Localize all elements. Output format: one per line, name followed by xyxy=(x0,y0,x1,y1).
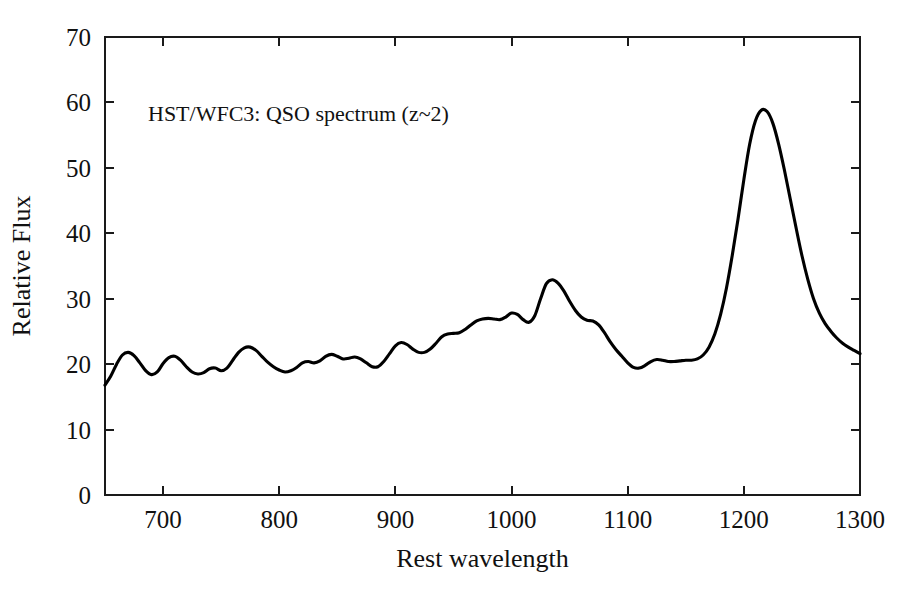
y-tick-label: 60 xyxy=(66,89,91,116)
spectrum-line xyxy=(105,109,860,385)
x-tick-label: 800 xyxy=(260,506,298,533)
y-axis-title: Relative Flux xyxy=(7,196,36,337)
y-tick-label: 30 xyxy=(66,286,91,313)
y-tick-label: 10 xyxy=(66,417,91,444)
x-tick-label: 1100 xyxy=(603,506,652,533)
x-tick-label: 1300 xyxy=(835,506,885,533)
y-tick-label: 70 xyxy=(66,24,91,51)
chart-annotation: HST/WFC3: QSO spectrum (z~2) xyxy=(148,101,449,126)
x-axis-title: Rest wavelength xyxy=(396,544,569,573)
y-tick-label: 20 xyxy=(66,351,91,378)
y-tick-label: 0 xyxy=(79,482,92,509)
x-tick-label: 900 xyxy=(377,506,415,533)
chart-figure: 7008009001000110012001300010203040506070… xyxy=(0,0,917,595)
x-tick-label: 700 xyxy=(144,506,182,533)
y-tick-label: 50 xyxy=(66,155,91,182)
y-tick-label: 40 xyxy=(66,220,91,247)
x-tick-label: 1200 xyxy=(719,506,769,533)
x-tick-label: 1000 xyxy=(487,506,537,533)
spectrum-plot: 7008009001000110012001300010203040506070… xyxy=(0,0,917,595)
